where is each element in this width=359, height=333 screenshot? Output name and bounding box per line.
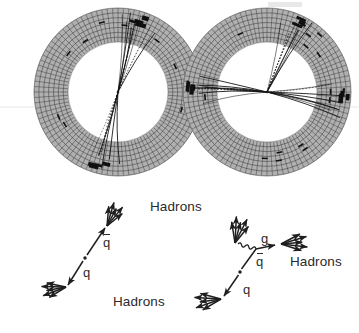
scan-artifact	[268, 2, 302, 7]
hadrons-label-top-left: Hadrons	[150, 200, 202, 214]
quark-label-right: q	[243, 283, 250, 296]
two-jet-event-display	[34, 8, 202, 176]
antiquark-label-right: q	[256, 255, 263, 268]
gluon-label: g	[261, 232, 268, 245]
hadrons-label-right: Hadrons	[290, 255, 342, 269]
physics-event-figure	[0, 0, 359, 333]
three-jet-event-display	[183, 8, 351, 176]
antiquark-label-left: q	[103, 236, 110, 249]
interaction-point	[117, 91, 120, 94]
antiquark-label-right-text: q	[256, 255, 263, 268]
antiquark-label-left-text: q	[103, 236, 110, 249]
hadrons-label-bottom-left: Hadrons	[113, 295, 165, 309]
annihilation-vertex	[83, 256, 86, 259]
quark-label-left: q	[83, 266, 90, 279]
interaction-point	[266, 91, 269, 94]
annihilation-vertex	[238, 270, 241, 273]
